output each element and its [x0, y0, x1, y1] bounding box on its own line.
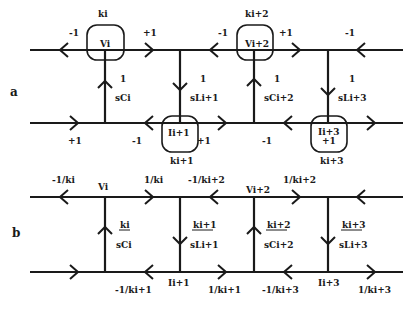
part-a-label: a	[10, 85, 18, 99]
node-name-vi: Vi	[99, 39, 111, 49]
branch-num-b-2: ki+1	[193, 220, 216, 230]
edge-gain-bottom-b-1: -1/ki+1	[115, 285, 152, 295]
edge-gain-bottom-a-4: -1	[262, 136, 272, 146]
node-gain-vi: ki	[98, 9, 108, 19]
branch-num-b-3: ki+2	[267, 220, 290, 230]
edge-gain-top-b-1: -1/ki	[52, 175, 76, 185]
edge-gain-bottom-b-3: -1/ki+3	[262, 285, 299, 295]
edge-gain-bottom-b-2: 1/ki+1	[208, 285, 241, 295]
edge-gain-top-a-3: -1	[218, 28, 228, 38]
branch-den-a-1: sCi	[115, 93, 131, 103]
node-gain-ii3: ki+3	[320, 156, 343, 166]
edge-gain-bottom-a-1: +1	[68, 136, 82, 146]
edge-gain-top-a-2: +1	[143, 28, 157, 38]
branch-den-a-4: sLi+3	[338, 93, 367, 103]
edge-gain-bottom-a-2: -1	[132, 136, 142, 146]
part-b: b Vi Vi+2 Ii+1 Ii+3 -1/ki 1/ki -1/ki+2	[12, 175, 403, 295]
branch-den-a-3: sCi+2	[264, 93, 293, 103]
edge-gain-top-b-2: 1/ki	[144, 175, 164, 185]
edge-gain-bottom-b-4: 1/ki+3	[358, 285, 391, 295]
part-b-label: b	[12, 226, 20, 240]
branch-num-b-4: ki+3	[342, 220, 365, 230]
node-name-ii1: Ii+1	[168, 128, 189, 138]
branch-num-a-1: 1	[120, 74, 126, 84]
node-name-vi-b: Vi	[97, 182, 109, 192]
node-name-vi2-b: Vi+2	[245, 185, 270, 195]
branch-num-a-2: 1	[200, 74, 206, 84]
branch-den-b-3: sCi+2	[264, 240, 293, 250]
node-extra-ii3: +1	[322, 136, 336, 146]
edge-gain-bottom-a-3: +1	[197, 136, 211, 146]
node-name-ii1-b: Ii+1	[168, 278, 189, 288]
edge-gain-top-b-3: -1/ki+2	[188, 175, 225, 185]
edge-gain-top-a-4: +1	[279, 28, 293, 38]
branch-den-a-2: sLi+1	[190, 93, 219, 103]
node-name-vi2: Vi+2	[244, 39, 269, 49]
branch-den-b-2: sLi+1	[190, 240, 219, 250]
edge-gain-top-b-4: 1/ki+2	[283, 175, 316, 185]
edge-gain-top-a-1: -1	[69, 28, 79, 38]
edge-gain-top-a-5: -1	[345, 28, 355, 38]
node-name-ii3-b: Ii+3	[318, 278, 339, 288]
node-gain-vi2: ki+2	[245, 9, 268, 19]
branch-num-a-3: 1	[274, 74, 280, 84]
branch-num-a-4: 1	[349, 74, 355, 84]
branch-num-b-1: ki	[120, 220, 130, 230]
signal-flow-graph: a ki Vi Ii+1 ki+1 k	[0, 0, 416, 309]
node-gain-ii1: ki+1	[170, 156, 193, 166]
branch-den-b-1: sCi	[116, 240, 132, 250]
branch-den-b-4: sLi+3	[339, 240, 368, 250]
part-a: a ki Vi Ii+1 ki+1 k	[10, 9, 403, 166]
